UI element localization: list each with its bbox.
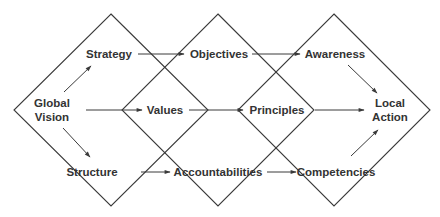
node-awareness: Awareness — [305, 47, 366, 61]
node-principles: Principles — [250, 103, 305, 117]
node-local-action: Local Action — [372, 96, 408, 124]
arrow-awareness-to-local-action — [348, 65, 377, 93]
node-values: Values — [147, 103, 183, 117]
node-global-vision-line1: Global — [34, 96, 70, 110]
arrow-global-to-strategy — [64, 66, 91, 92]
node-global-vision-line2: Vision — [34, 110, 70, 124]
node-structure: Structure — [66, 165, 117, 179]
diagram-canvas: Global Vision Strategy Values Structure … — [0, 0, 440, 217]
node-strategy: Strategy — [86, 47, 132, 61]
arrow-global-to-structure — [63, 128, 90, 157]
node-accountabilities: Accountabilities — [174, 165, 263, 179]
node-competencies: Competencies — [297, 165, 376, 179]
node-local-action-line1: Local — [372, 96, 408, 110]
node-local-action-line2: Action — [372, 110, 408, 124]
node-global-vision: Global Vision — [34, 96, 70, 124]
node-objectives: Objectives — [190, 47, 248, 61]
arrow-competencies-to-local-action — [351, 130, 378, 156]
